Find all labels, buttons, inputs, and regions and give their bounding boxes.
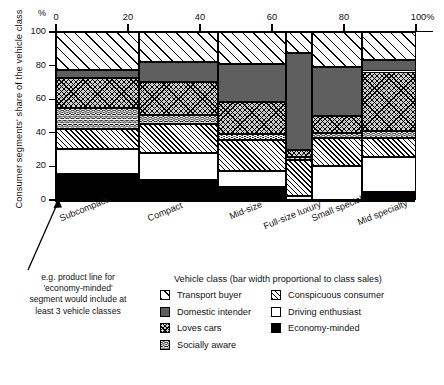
segment-domestic-intender[interactable] — [140, 62, 217, 82]
segment-driving-enthusiast[interactable] — [219, 171, 285, 186]
y-tick-label: 60 — [18, 93, 46, 103]
y-tick — [49, 199, 56, 200]
segment-driving-enthusiast[interactable] — [287, 196, 310, 200]
legend-label: Socially aware — [177, 340, 236, 350]
segment-domestic-intender[interactable] — [363, 60, 415, 72]
segment-driving-enthusiast[interactable] — [57, 149, 138, 174]
legend-swatch-icon — [160, 340, 170, 350]
segment-domestic-intender[interactable] — [313, 67, 361, 116]
mekko-chart: % Consumer segments' share of the vehicl… — [0, 0, 444, 385]
bar-compact[interactable] — [139, 32, 218, 200]
segment-domestic-intender[interactable] — [219, 64, 285, 102]
x-tick-label: 0 — [53, 12, 58, 22]
legend-swatch-icon — [160, 307, 170, 317]
annotation-line-3: least 3 vehicle classes — [2, 306, 154, 317]
y-axis-unit: % — [38, 8, 46, 18]
segment-domestic-intender[interactable] — [57, 70, 138, 78]
legend-swatch-icon — [271, 323, 281, 333]
y-tick — [49, 65, 56, 66]
legend-swatch-icon — [160, 290, 170, 300]
segment-driving-enthusiast[interactable] — [140, 153, 217, 180]
segment-conspicuous-consumer[interactable] — [57, 129, 138, 148]
segment-loves-cars[interactable] — [287, 150, 310, 158]
segment-economy-minded[interactable] — [363, 192, 415, 200]
bar-full-size-luxury[interactable] — [286, 32, 311, 200]
legend-label: Economy-minded — [288, 323, 360, 333]
legend-item-conspicuous-consumer[interactable]: Conspicuous consumer — [271, 290, 384, 300]
segment-transport-buyer[interactable] — [57, 32, 138, 70]
segment-loves-cars[interactable] — [219, 102, 285, 134]
y-tick-label: 80 — [18, 60, 46, 70]
y-tick — [49, 31, 56, 32]
segment-conspicuous-consumer[interactable] — [287, 160, 310, 196]
legend-item-economy-minded[interactable]: Economy-minded — [271, 323, 384, 333]
y-tick — [49, 166, 56, 167]
legend: Vehicle class (bar width proportional to… — [160, 274, 444, 350]
segment-conspicuous-consumer[interactable] — [313, 138, 361, 167]
segment-loves-cars[interactable] — [57, 78, 138, 107]
segment-driving-enthusiast[interactable] — [363, 157, 415, 192]
y-tick — [49, 99, 56, 100]
x-tick-label: 80 — [339, 12, 349, 22]
x-tick-label: 20 — [123, 12, 133, 22]
legend-label: Transport buyer — [177, 290, 242, 300]
category-label-compact: Compact — [146, 200, 184, 223]
bar-mid-size[interactable] — [218, 32, 286, 200]
legend-item-loves-cars[interactable]: Loves cars — [160, 323, 251, 333]
x-tick — [199, 24, 200, 31]
segment-economy-minded[interactable] — [140, 180, 217, 200]
x-tick — [271, 24, 272, 31]
annotation-line-1: 'economy-minded' — [2, 283, 154, 294]
legend-swatch-icon — [271, 290, 281, 300]
y-tick-label: 0 — [18, 194, 46, 204]
segment-economy-minded[interactable] — [219, 187, 285, 200]
annotation-line-0: e.g. product line for — [2, 272, 154, 283]
legend-column-0: Transport buyerDomestic intenderLoves ca… — [160, 290, 251, 350]
annotation-line-2: segment would include at — [2, 294, 154, 305]
segment-loves-cars[interactable] — [313, 116, 361, 133]
segment-conspicuous-consumer[interactable] — [363, 138, 415, 157]
segment-socially-aware[interactable] — [363, 131, 415, 138]
legend-label: Domestic intender — [177, 307, 251, 317]
legend-item-transport-buyer[interactable]: Transport buyer — [160, 290, 251, 300]
x-tick — [55, 24, 56, 31]
y-tick-label: 100 — [18, 26, 46, 36]
segment-socially-aware[interactable] — [313, 133, 361, 138]
x-tick — [127, 24, 128, 31]
legend-columns: Transport buyerDomestic intenderLoves ca… — [160, 290, 444, 350]
x-tick-label: 100% — [411, 12, 435, 22]
segment-socially-aware[interactable] — [219, 134, 285, 141]
legend-swatch-icon — [271, 307, 281, 317]
bar-small-specialty[interactable] — [312, 32, 362, 200]
segment-socially-aware[interactable] — [57, 108, 138, 130]
segment-transport-buyer[interactable] — [219, 32, 285, 64]
segment-transport-buyer[interactable] — [140, 32, 217, 62]
legend-item-domestic-intender[interactable]: Domestic intender — [160, 307, 251, 317]
segment-conspicuous-consumer[interactable] — [140, 124, 217, 153]
x-tick-label: 60 — [267, 12, 277, 22]
x-tick — [343, 24, 344, 31]
legend-item-driving-enthusiast[interactable]: Driving enthusiast — [271, 307, 384, 317]
y-tick — [49, 132, 56, 133]
legend-item-socially-aware[interactable]: Socially aware — [160, 340, 251, 350]
bar-subcompact[interactable] — [56, 32, 139, 200]
y-tick-label: 20 — [18, 160, 46, 170]
segment-socially-aware[interactable] — [140, 115, 217, 123]
segment-loves-cars[interactable] — [140, 82, 217, 115]
segment-socially-aware[interactable] — [287, 157, 310, 160]
legend-label: Loves cars — [177, 323, 221, 333]
segment-transport-buyer[interactable] — [363, 32, 415, 60]
segment-transport-buyer[interactable] — [313, 32, 361, 67]
segment-conspicuous-consumer[interactable] — [219, 140, 285, 171]
segment-domestic-intender[interactable] — [287, 53, 310, 150]
legend-label: Conspicuous consumer — [288, 290, 384, 300]
bar-mid-specialty[interactable] — [362, 32, 416, 200]
segment-loves-cars[interactable] — [363, 72, 415, 132]
plot-area — [56, 32, 416, 200]
segment-transport-buyer[interactable] — [287, 32, 310, 53]
segment-economy-minded[interactable] — [57, 174, 138, 200]
annotation-text: e.g. product line for 'economy-minded' s… — [2, 272, 154, 317]
legend-label: Driving enthusiast — [288, 307, 361, 317]
legend-swatch-icon — [160, 323, 170, 333]
category-label-mid-size: Mid-size — [228, 199, 263, 221]
